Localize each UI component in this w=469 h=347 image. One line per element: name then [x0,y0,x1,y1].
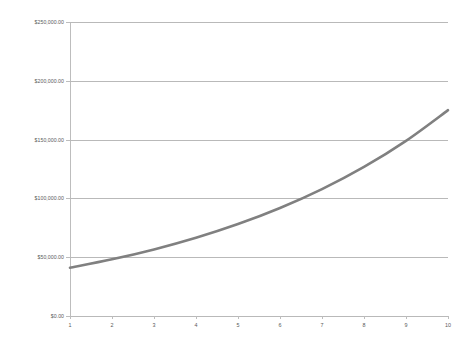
x-tick-label: 2 [102,322,122,328]
y-tick-label: $50,000.00 [2,254,64,260]
x-tick-mark [112,316,113,319]
y-tick-mark [66,22,70,23]
y-tick-mark [66,257,70,258]
x-tick-mark [238,316,239,319]
x-tick-label: 7 [312,322,332,328]
y-tick-label: $200,000.00 [2,78,64,84]
y-tick-label: $100,000.00 [2,195,64,201]
gridline-y [70,22,448,23]
y-tick-label: $0.00 [2,313,64,319]
x-tick-label: 10 [438,322,458,328]
x-tick-label: 4 [186,322,206,328]
gridline-y [70,198,448,199]
line-chart: $0.00$50,000.00$100,000.00$150,000.00$20… [0,0,469,347]
x-tick-mark [364,316,365,319]
y-tick-label: $150,000.00 [2,137,64,143]
x-tick-mark [448,316,449,319]
gridline-y [70,81,448,82]
gridline-y [70,257,448,258]
y-tick-label: $250,000.00 [2,19,64,25]
gridline-y [70,140,448,141]
x-tick-label: 9 [396,322,416,328]
x-tick-mark [406,316,407,319]
x-tick-mark [154,316,155,319]
x-tick-mark [322,316,323,319]
x-tick-mark [70,316,71,319]
x-tick-mark [280,316,281,319]
x-tick-label: 3 [144,322,164,328]
y-tick-mark [66,198,70,199]
x-tick-label: 1 [60,322,80,328]
series-line-value [70,110,448,268]
x-tick-label: 8 [354,322,374,328]
x-tick-label: 5 [228,322,248,328]
y-axis-line [70,22,71,316]
x-tick-label: 6 [270,322,290,328]
y-tick-mark [66,81,70,82]
x-tick-mark [196,316,197,319]
gridline-y [70,316,448,317]
y-tick-mark [66,140,70,141]
